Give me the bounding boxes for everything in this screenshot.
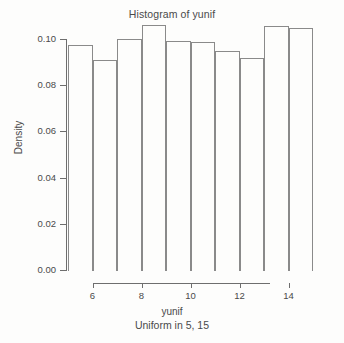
x-axis-tick [142,283,143,288]
plot-area [68,29,313,271]
x-axis-tick [93,283,94,288]
histogram-bar [142,25,167,271]
histogram-bar [264,26,289,271]
y-axis-tick [60,131,66,132]
histogram-bar [68,45,93,271]
histogram-bar [215,51,240,271]
y-axis-tick-label: 0.00 [0,264,56,275]
x-axis-tick-label: 14 [269,290,309,301]
histogram-bar [166,41,191,271]
x-axis-tick-label: 12 [220,290,260,301]
y-axis-line [66,39,67,271]
y-axis-tick-label: 0.06 [0,125,56,136]
x-axis-tick-label: 10 [171,290,211,301]
x-axis-tick [289,283,290,288]
chart-title: Histogram of yunif [0,8,344,20]
histogram-bar [240,58,265,271]
y-axis-tick [60,224,66,225]
x-axis-title: yunif [0,306,344,317]
x-axis-line [93,283,270,284]
x-axis-tick [191,283,192,288]
x-axis-tick-label: 6 [73,290,113,301]
y-axis-tick-label: 0.04 [0,172,56,183]
y-axis-title: Density [13,108,24,168]
histogram-bar [93,60,118,271]
y-axis-tick [60,85,66,86]
x-axis-tick [240,283,241,288]
y-axis-tick-label: 0.02 [0,218,56,229]
y-axis-tick [60,39,66,40]
y-axis-tick-label: 0.08 [0,79,56,90]
histogram-bar [117,39,142,271]
x-axis-subtitle: Uniform in 5, 15 [0,319,344,331]
histogram-bar [289,28,314,271]
y-axis-tick [60,270,66,271]
y-axis-tick [60,178,66,179]
x-axis-tick-label: 8 [122,290,162,301]
histogram-figure: Histogram of yunif Density 0.000.020.040… [0,0,344,343]
y-axis-tick-label: 0.10 [0,33,56,44]
histogram-bar [191,42,216,271]
